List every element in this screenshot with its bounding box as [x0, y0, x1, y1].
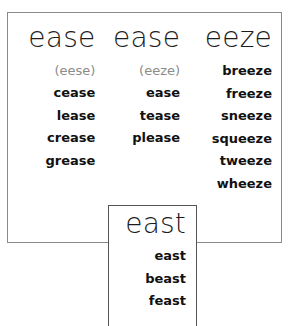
- word-item: crease: [47, 127, 95, 150]
- word-item: beast: [145, 268, 186, 291]
- word-item: tweeze: [220, 150, 272, 173]
- word-item: please: [132, 127, 180, 150]
- word-item: breeze: [222, 60, 272, 83]
- column-header-eeze: eeze: [205, 23, 272, 53]
- column-header-ease-eese: ease: [28, 23, 95, 53]
- column-header-east: east: [125, 209, 186, 239]
- word-family-chart: ease (eese) cease lease crease grease ea…: [0, 0, 292, 326]
- word-item: freeze: [226, 83, 272, 106]
- east-word-box: east east beast feast: [108, 205, 197, 326]
- word-item: squeeze: [212, 128, 272, 151]
- word-item: ease: [146, 82, 180, 105]
- word-item: east: [154, 245, 186, 268]
- east-column: east east beast feast: [109, 206, 196, 313]
- word-column-ease-eese: ease (eese) cease lease crease grease: [12, 23, 99, 172]
- pronunciation-eeze: (eeze): [139, 60, 180, 82]
- word-item: sneeze: [221, 105, 272, 128]
- column-header-ease-eeze: ease: [113, 23, 180, 53]
- pronunciation-eese: (eese): [54, 60, 95, 82]
- word-item: wheeze: [217, 173, 272, 196]
- word-item: cease: [54, 82, 96, 105]
- word-column-eeze: eeze breeze freeze sneeze squeeze tweeze…: [183, 23, 272, 195]
- word-item: tease: [140, 105, 180, 128]
- word-column-ease-eeze: ease (eeze) ease tease please: [99, 23, 183, 150]
- word-item: grease: [45, 150, 95, 173]
- word-item: lease: [57, 105, 96, 128]
- word-item: feast: [149, 290, 186, 313]
